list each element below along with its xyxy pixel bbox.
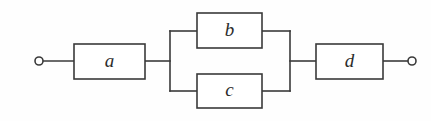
series-parallel-diagram: a b c d	[0, 0, 431, 121]
block-c-label: c	[225, 79, 234, 100]
block-a-label: a	[105, 50, 115, 71]
diagram-canvas: a b c d	[0, 0, 431, 121]
block-d[interactable]: d	[316, 44, 383, 79]
block-b[interactable]: b	[197, 13, 262, 48]
block-b-label: b	[225, 19, 235, 40]
right-terminal-node[interactable]	[408, 57, 416, 65]
block-a[interactable]: a	[74, 44, 145, 79]
block-d-label: d	[345, 50, 355, 71]
block-c[interactable]: c	[197, 74, 262, 108]
left-terminal-node[interactable]	[35, 57, 43, 65]
